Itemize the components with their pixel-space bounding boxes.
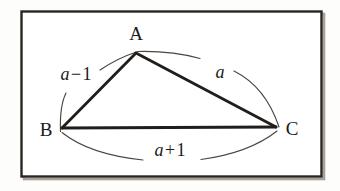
vertex-label-c: C (286, 118, 299, 139)
triangle-edge-bc (62, 127, 276, 128)
figure-container: A B C a−1 a a+1 (0, 0, 340, 191)
side-label-ab: a−1 (60, 64, 91, 84)
side-label-ac-variable: a (216, 62, 225, 82)
vertex-label-a: A (129, 23, 143, 44)
side-label-ab-operator: − (71, 64, 81, 84)
side-label-bc-operator: + (165, 140, 175, 160)
triangle-diagram: A B C a−1 a a+1 (0, 0, 340, 191)
side-label-bc-operand: 1 (177, 140, 186, 160)
side-label-ab-operand: 1 (83, 64, 92, 84)
vertex-label-b: B (40, 119, 53, 140)
side-label-bc-variable: a (154, 140, 163, 160)
side-label-ab-variable: a (60, 64, 69, 84)
side-label-ac: a (216, 62, 225, 82)
side-label-bc: a+1 (154, 140, 185, 160)
